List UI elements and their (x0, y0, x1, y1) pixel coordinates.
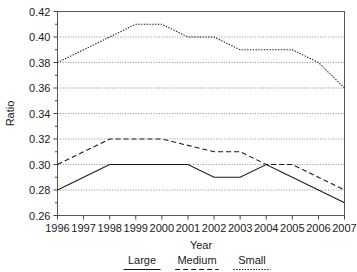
x-tick-label: 2005 (280, 222, 304, 234)
x-tick-label: 2006 (306, 222, 330, 234)
chart-canvas: 0.260.280.300.320.340.360.380.400.42 199… (0, 0, 357, 272)
legend-label-small: Small (238, 254, 266, 266)
gridlines (58, 12, 345, 191)
y-tick-label: 0.38 (29, 57, 50, 69)
series-line-small (58, 24, 345, 88)
legend-label-large: Large (128, 254, 156, 266)
line-chart: 0.260.280.300.320.340.360.380.400.42 199… (0, 0, 357, 272)
y-tick-label: 0.26 (29, 210, 50, 222)
legend-label-medium: Medium (177, 254, 216, 266)
x-tick-label: 2001 (176, 222, 200, 234)
x-axis-ticks (58, 216, 345, 220)
x-tick-label: 2007 (332, 222, 356, 234)
x-tick-label: 2003 (228, 222, 252, 234)
y-tick-label: 0.34 (29, 108, 50, 120)
x-tick-label: 1997 (71, 222, 95, 234)
y-axis-tick-labels: 0.260.280.300.320.340.360.380.400.42 (29, 6, 50, 222)
x-axis-title: Year (190, 239, 213, 251)
y-tick-label: 0.40 (29, 31, 50, 43)
y-axis-ticks (54, 12, 58, 216)
y-tick-label: 0.42 (29, 6, 50, 18)
x-tick-label: 1996 (45, 222, 69, 234)
x-axis-tick-labels: 1996199719981999200020012002200320042005… (45, 222, 356, 234)
y-tick-label: 0.30 (29, 159, 50, 171)
x-tick-label: 2000 (150, 222, 174, 234)
series-line-large (58, 165, 345, 203)
y-axis-title: Ratio (4, 101, 16, 127)
x-tick-label: 2004 (254, 222, 278, 234)
y-tick-label: 0.36 (29, 82, 50, 94)
y-tick-label: 0.28 (29, 184, 50, 196)
x-tick-label: 2002 (202, 222, 226, 234)
legend: LargeMediumSmall (124, 254, 271, 270)
x-tick-label: 1999 (124, 222, 148, 234)
x-tick-label: 1998 (97, 222, 121, 234)
y-tick-label: 0.32 (29, 133, 50, 145)
